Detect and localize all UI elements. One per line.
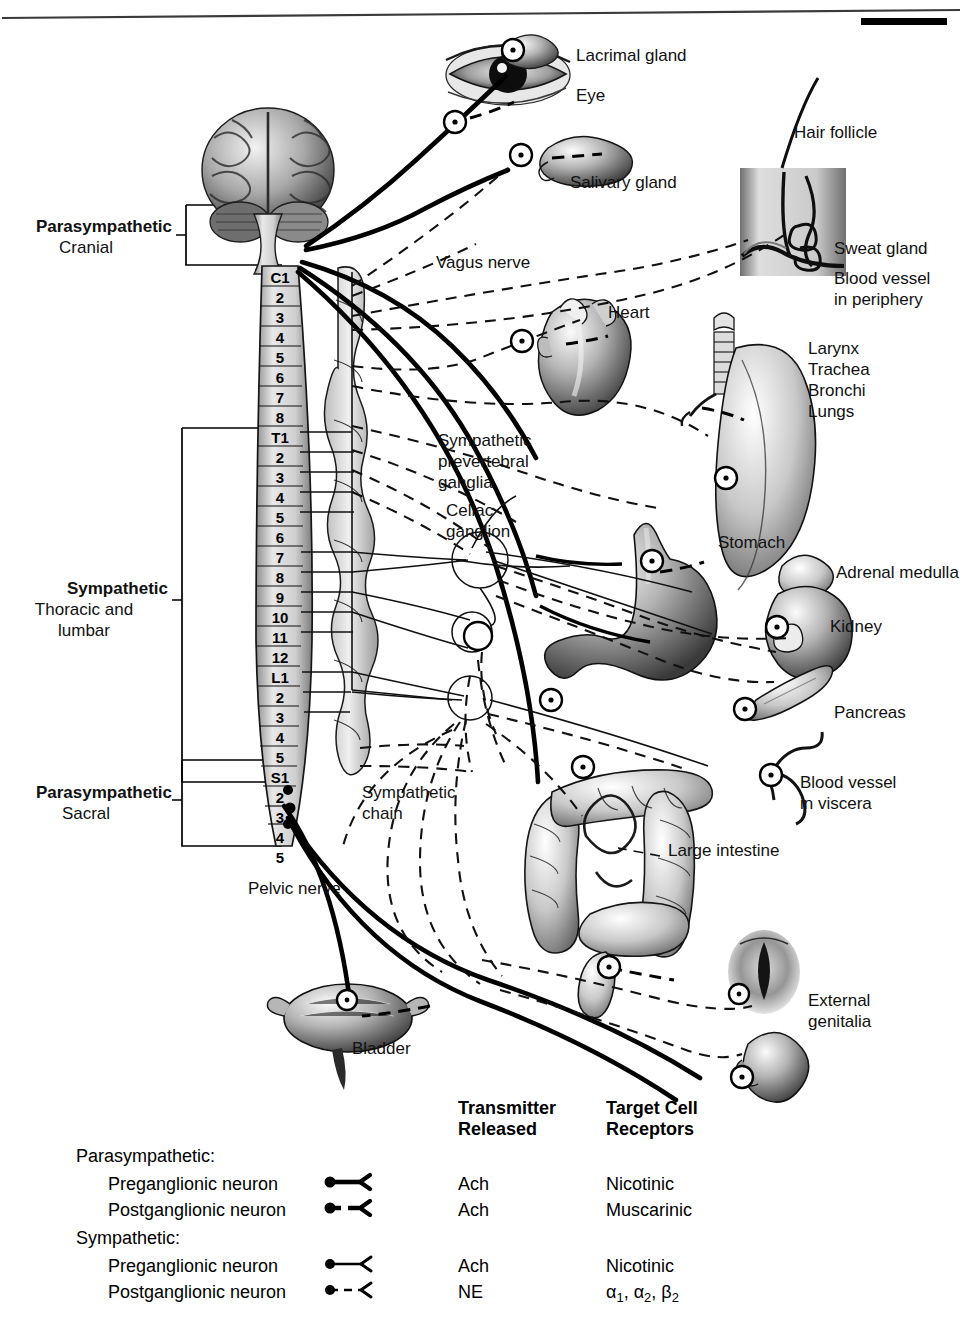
spinal-segment-4: 4 <box>262 490 298 505</box>
label-heart: Heart <box>608 302 650 323</box>
legend-row-label-symp-post: Postganglionic neuron <box>108 1282 286 1303</box>
label-sympathetic-prevertebral-ganglia: Sympathetic prevertebral ganglia <box>438 430 532 493</box>
label-pelvic-nerve: Pelvic nerve <box>248 878 341 899</box>
legend-symbol-para-postganglionic <box>325 1201 371 1215</box>
label-salivary-gland: Salivary gland <box>570 172 677 193</box>
label-airways: Larynx Trachea Bronchi Lungs <box>808 338 870 422</box>
legend-transmitter-symp-post: NE <box>458 1282 483 1303</box>
legend-col-receptors-line2: Receptors <box>606 1119 694 1140</box>
top-rule <box>2 10 960 18</box>
legend-transmitter-symp-pre: Ach <box>458 1256 489 1277</box>
label-pancreas: Pancreas <box>834 702 906 723</box>
spinal-segment-8: 8 <box>262 570 298 585</box>
receptor-alpha1-sub: 1 <box>616 1290 623 1305</box>
legend-heading-sympathetic: Sympathetic: <box>76 1228 180 1249</box>
spinal-segment-5: 5 <box>262 350 298 365</box>
legend-receptor-para-pre: Nicotinic <box>606 1174 674 1195</box>
spinal-segment-7: 7 <box>262 390 298 405</box>
spinal-segment-5: 5 <box>262 510 298 525</box>
division-sublabel-cranial: Cranial <box>0 237 172 258</box>
legend-row-label-para-post: Postganglionic neuron <box>108 1200 286 1221</box>
label-celiac-ganglion: Celiac ganglion <box>446 500 510 542</box>
legend-symbol-para-preganglionic <box>325 1175 371 1189</box>
label-large-intestine: Large intestine <box>668 840 780 861</box>
spinal-segment-4: 4 <box>264 830 296 845</box>
spinal-segment-3: 3 <box>264 810 297 825</box>
label-lacrimal-gland: Lacrimal gland <box>576 45 687 66</box>
spinal-segment-2: 2 <box>262 450 298 465</box>
spinal-segment-6: 6 <box>262 530 298 545</box>
label-sweat-gland: Sweat gland <box>834 238 928 259</box>
spinal-segment-L1: L1 <box>262 670 298 685</box>
spinal-segment-3: 3 <box>262 710 298 725</box>
division-sublabel-lumbar: lumbar <box>0 620 168 641</box>
hair-follicle-illustration <box>740 78 846 276</box>
spinal-segment-2: 2 <box>262 290 298 305</box>
label-blood-vessel-viscera: Blood vessel in viscera <box>800 772 896 814</box>
spinal-segment-3: 3 <box>262 310 298 325</box>
label-sympathetic-chain: Sympathetic chain <box>362 782 456 824</box>
division-label-parasympathetic-sacral: Parasympathetic <box>0 782 172 803</box>
spinal-segment-4: 4 <box>262 730 298 745</box>
spinal-segment-10: 10 <box>262 610 298 625</box>
diagram-canvas: Parasympathetic Cranial Sympathetic Thor… <box>0 0 966 1341</box>
spinal-segment-2: 2 <box>262 690 298 705</box>
spinal-segment-12: 12 <box>262 650 298 665</box>
legend-receptor-symp-post: α1, α2, β2 <box>606 1282 679 1308</box>
legend-col-transmitter-line1: Transmitter <box>458 1098 556 1119</box>
receptor-beta2: β <box>661 1282 671 1302</box>
spinal-segment-2: 2 <box>263 790 297 805</box>
label-external-genitalia: External genitalia <box>808 990 871 1032</box>
spinal-segment-T1: T1 <box>262 430 298 445</box>
receptor-beta2-sub: 2 <box>672 1290 679 1305</box>
division-sublabel-sacral: Sacral <box>0 803 172 824</box>
spinal-segment-C1: C1 <box>262 270 298 285</box>
label-stomach: Stomach <box>718 532 785 553</box>
legend-transmitter-para-pre: Ach <box>458 1174 489 1195</box>
division-sublabel-thoracic: Thoracic and <box>0 599 168 620</box>
spinal-segment-6: 6 <box>262 370 298 385</box>
division-label-sympathetic: Sympathetic <box>0 578 168 599</box>
legend-row-label-symp-pre: Preganglionic neuron <box>108 1256 278 1277</box>
legend-row-label-para-pre: Preganglionic neuron <box>108 1174 278 1195</box>
legend-heading-parasympathetic: Parasympathetic: <box>76 1146 215 1167</box>
label-kidney: Kidney <box>830 616 882 637</box>
legend-transmitter-para-post: Ach <box>458 1200 489 1221</box>
spinal-segment-S1: S1 <box>263 770 297 785</box>
receptor-alpha2-sub: 2 <box>644 1290 651 1305</box>
spinal-segment-8: 8 <box>262 410 298 425</box>
label-bladder: Bladder <box>352 1038 411 1059</box>
label-hair-follicle: Hair follicle <box>794 122 877 143</box>
label-eye: Eye <box>576 85 605 106</box>
large-intestine-illustration <box>525 770 713 1018</box>
receptor-alpha2: α <box>634 1282 644 1302</box>
legend-symbol-symp-postganglionic <box>325 1283 371 1297</box>
top-black-bar <box>861 18 947 25</box>
label-adrenal-medulla: Adrenal medulla <box>836 562 959 583</box>
spinal-segment-11: 11 <box>262 630 298 645</box>
spinal-segment-3: 3 <box>262 470 298 485</box>
legend-receptor-symp-pre: Nicotinic <box>606 1256 674 1277</box>
division-label-parasympathetic-cranial: Parasympathetic <box>0 216 172 237</box>
spinal-segment-7: 7 <box>262 550 298 565</box>
label-blood-vessel-periphery: Blood vessel in periphery <box>834 268 930 310</box>
stomach-illustration <box>545 523 717 680</box>
spinal-segment-5: 5 <box>264 850 295 865</box>
spinal-segment-5: 5 <box>262 750 297 765</box>
spinal-segment-4: 4 <box>262 330 298 345</box>
label-vagus-nerve: Vagus nerve <box>436 252 530 273</box>
legend-symbols <box>322 1160 442 1320</box>
legend-symbol-symp-preganglionic <box>325 1257 371 1271</box>
legend-col-receptors-line1: Target Cell <box>606 1098 698 1119</box>
receptor-alpha1: α <box>606 1282 616 1302</box>
legend-col-transmitter-line2: Released <box>458 1119 537 1140</box>
spinal-segment-9: 9 <box>262 590 298 605</box>
legend-receptor-para-post: Muscarinic <box>606 1200 692 1221</box>
